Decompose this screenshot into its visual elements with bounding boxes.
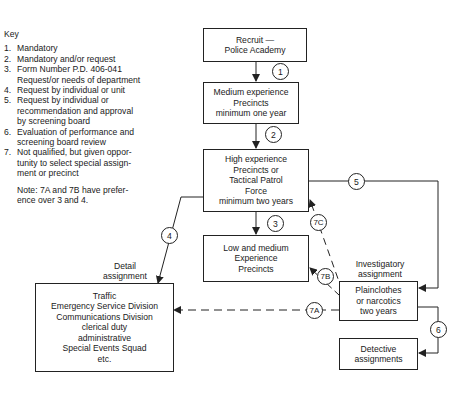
box-detail-assignment: Traffic Emergency Service Division Commu… — [35, 283, 174, 372]
label-investigatory-assignment: Investigatory assignment — [335, 259, 425, 280]
legend-item: 5.Request by individual or recommendatio… — [4, 95, 140, 126]
step-circle-5: 5 — [348, 173, 365, 190]
legend-text: Mandatory and/or request — [17, 54, 115, 64]
legend-num: 1. — [4, 43, 17, 53]
legend-text: Form Number P.D. 406-041 Request/or need… — [17, 64, 140, 85]
legend-text: Request by individual or unit — [17, 85, 125, 95]
box-plainclothes: Plainclothes or narcotics two years — [339, 281, 418, 321]
step-circle-2: 2 — [265, 126, 282, 143]
legend-note: Note: 7A and 7B have prefer- ence over 3… — [4, 185, 140, 206]
legend-num: 6. — [4, 127, 17, 148]
legend-text: Evaluation of performance and screening … — [17, 127, 134, 148]
legend-num: 5. — [4, 95, 17, 126]
legend-item: 7.Not qualified, but given oppor- tunity… — [4, 147, 140, 178]
legend-item: 6.Evaluation of performance and screenin… — [4, 127, 140, 148]
box-low-medium-experience: Low and medium Experience Precincts — [203, 235, 309, 282]
step-circle-6: 6 — [430, 321, 447, 338]
step-circle-4: 4 — [161, 227, 178, 244]
legend-key: Key 1.Mandatory 2.Mandatory and/or reque… — [4, 29, 140, 206]
legend-text: Not qualified, but given oppor- tunity t… — [17, 147, 132, 178]
step-circle-7c: 7C — [310, 214, 327, 231]
step-circle-7b: 7B — [317, 268, 334, 285]
legend-num: 2. — [4, 54, 17, 64]
legend-item: 2.Mandatory and/or request — [4, 54, 140, 64]
legend-text: Request by individual or recommendation … — [17, 95, 133, 126]
step-circle-3: 3 — [267, 215, 284, 232]
legend-text: Mandatory — [17, 43, 58, 53]
legend-item: 1.Mandatory — [4, 43, 140, 53]
legend-title: Key — [4, 29, 140, 39]
legend-item: 4.Request by individual or unit — [4, 85, 140, 95]
box-high-experience: High experience Precincts or Tactical Pa… — [203, 149, 309, 212]
legend-num: 7. — [4, 147, 17, 178]
box-medium-experience: Medium experience Precincts minimum one … — [203, 82, 299, 124]
box-recruit: Recruit — Police Academy — [203, 28, 307, 62]
legend-item: 3.Form Number P.D. 406-041 Request/or ne… — [4, 64, 140, 85]
label-detail-assignment: Detail assignment — [80, 261, 170, 282]
legend-num: 4. — [4, 85, 17, 95]
legend-num: 3. — [4, 64, 17, 85]
step-circle-7a: 7A — [306, 302, 323, 319]
box-detective: Detective assignments — [339, 338, 418, 370]
step-circle-1: 1 — [272, 63, 289, 80]
